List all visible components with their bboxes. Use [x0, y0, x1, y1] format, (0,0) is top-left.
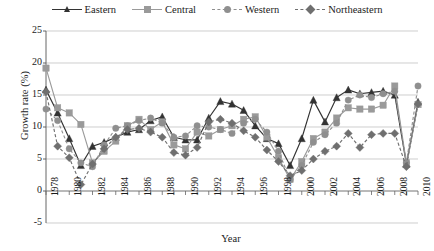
- chart-figure: EasternCentralWesternNortheastern Growth…: [0, 0, 434, 251]
- data-point-triangle: [66, 135, 73, 142]
- data-point-circle: [171, 134, 177, 140]
- data-point-triangle: [321, 118, 328, 125]
- x-tick-label: 1984: [120, 177, 130, 196]
- x-tick-label: 1988: [166, 177, 176, 196]
- data-point-circle: [54, 117, 60, 123]
- data-point-circle: [78, 160, 84, 166]
- data-point-square: [171, 142, 177, 148]
- x-tick-label: 2008: [399, 177, 409, 196]
- data-point-circle: [310, 139, 316, 145]
- data-point-square: [54, 105, 60, 111]
- x-tick-label: 2010: [422, 177, 432, 196]
- data-point-diamond: [170, 149, 178, 157]
- data-point-circle: [194, 123, 200, 129]
- data-point-circle: [415, 83, 421, 89]
- x-tick-label: 1982: [97, 177, 107, 196]
- x-tick-label: 1998: [283, 177, 293, 196]
- x-tick-label: 1986: [143, 177, 153, 196]
- chart-canvas: [0, 0, 434, 251]
- data-point-circle: [368, 94, 374, 100]
- data-point-triangle: [298, 135, 305, 142]
- y-tick-label: 25: [20, 24, 42, 35]
- data-point-circle: [252, 116, 258, 122]
- x-tick-label: 1990: [190, 177, 200, 196]
- data-point-diamond: [193, 143, 201, 151]
- data-point-circle: [159, 120, 165, 126]
- y-tick-label: 20: [20, 56, 42, 67]
- data-point-circle: [66, 146, 72, 152]
- data-point-diamond: [333, 142, 341, 150]
- y-axis-label: Growth rate (%): [19, 51, 30, 161]
- x-tick-label: 1980: [73, 177, 83, 196]
- data-point-square: [78, 121, 84, 127]
- data-point-diamond: [216, 115, 224, 123]
- x-tick-label: 1996: [259, 177, 269, 196]
- data-point-square: [194, 129, 200, 135]
- y-tick-label: 5: [20, 152, 42, 163]
- data-point-square: [206, 133, 212, 139]
- data-point-circle: [136, 117, 142, 123]
- data-point-triangle: [240, 107, 247, 114]
- data-point-circle: [275, 148, 281, 154]
- x-tick-label: 1978: [50, 177, 60, 196]
- data-point-circle: [217, 126, 223, 132]
- x-tick-label: 2000: [306, 177, 316, 196]
- data-point-square: [43, 65, 49, 71]
- data-point-square: [357, 106, 363, 112]
- data-point-triangle: [345, 86, 352, 93]
- data-point-diamond: [251, 133, 259, 141]
- data-point-diamond: [240, 127, 248, 135]
- series-western: [43, 83, 421, 183]
- data-point-circle: [113, 125, 119, 131]
- data-point-square: [380, 102, 386, 108]
- y-tick-label: 15: [20, 88, 42, 99]
- data-point-diamond: [379, 129, 387, 137]
- y-tick-label: 10: [20, 120, 42, 131]
- y-tick-label: 0: [20, 184, 42, 195]
- data-point-triangle: [217, 98, 224, 105]
- x-tick-label: 1992: [213, 177, 223, 196]
- data-point-diamond: [65, 154, 73, 162]
- data-point-diamond: [321, 147, 329, 155]
- x-tick-label: 2006: [376, 177, 386, 196]
- data-point-circle: [264, 129, 270, 135]
- data-point-triangle: [287, 162, 294, 169]
- data-point-diamond: [298, 167, 306, 175]
- data-point-circle: [229, 130, 235, 136]
- plot-area: [0, 0, 434, 251]
- x-tick-label: 2002: [329, 177, 339, 196]
- data-point-circle: [357, 92, 363, 98]
- data-point-circle: [392, 88, 398, 94]
- x-tick-label: 2004: [352, 177, 362, 196]
- y-tick-label-minus5: -5: [20, 216, 42, 227]
- data-point-square: [368, 106, 374, 112]
- x-axis-label: Year: [14, 233, 434, 244]
- data-point-circle: [322, 131, 328, 137]
- data-point-square: [66, 110, 72, 116]
- data-point-circle: [240, 120, 246, 126]
- data-point-circle: [182, 133, 188, 139]
- data-point-circle: [147, 115, 153, 121]
- data-point-circle: [43, 106, 49, 112]
- data-point-diamond: [391, 129, 399, 137]
- data-point-circle: [380, 91, 386, 97]
- data-point-diamond: [158, 133, 166, 141]
- data-point-circle: [333, 120, 339, 126]
- data-point-triangle: [310, 96, 317, 103]
- data-point-diamond: [182, 151, 190, 159]
- x-tick-label: 1994: [236, 177, 246, 196]
- data-point-triangle: [275, 140, 282, 147]
- data-point-circle: [345, 97, 351, 103]
- data-point-diamond: [205, 118, 213, 126]
